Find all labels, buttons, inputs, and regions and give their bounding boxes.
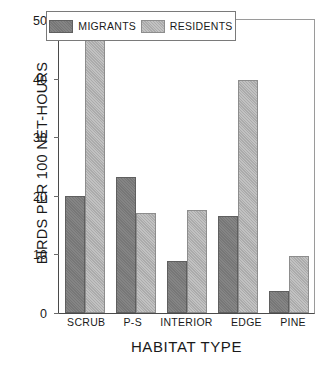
y-axis-tick-label: 20 (33, 190, 47, 204)
x-axis-tick-label: INTERIOR (160, 316, 213, 328)
x-axis-tick-label: EDGE (231, 316, 262, 328)
legend-label-migrants: MIGRANTS (78, 20, 136, 32)
bar-groups (59, 20, 314, 313)
bar-migrants-edge[interactable] (218, 216, 238, 313)
y-axis-title: BIRDS PER 100 NET-HOURS (34, 13, 50, 313)
chart-legend: MIGRANTS RESIDENTS (46, 11, 236, 41)
bar-chart-figure: BIRDS PER 100 NET-HOURS 01020304050 MIGR… (0, 0, 330, 367)
bar-migrants-scrub[interactable] (65, 196, 85, 313)
x-axis-title: HABITAT TYPE (58, 338, 315, 355)
y-axis-tick-label: 10 (33, 248, 47, 262)
bar-group (167, 20, 207, 313)
bar-residents-pine[interactable] (289, 256, 309, 313)
bar-migrants-p-s[interactable] (116, 177, 136, 313)
legend-entry-migrants: MIGRANTS (49, 20, 136, 33)
bar-residents-scrub[interactable] (85, 32, 105, 313)
y-axis-tick-label: 50 (33, 14, 47, 28)
bar-group (269, 20, 309, 313)
x-axis-tick-label: SCRUB (67, 316, 105, 328)
x-axis-tick-labels: SCRUBP-SINTERIOREDGEPINE (58, 316, 315, 328)
bar-group (65, 20, 105, 313)
legend-swatch-migrants (49, 20, 73, 33)
legend-entry-residents: RESIDENTS (141, 20, 233, 33)
bar-residents-p-s[interactable] (136, 213, 156, 313)
bar-migrants-interior[interactable] (167, 261, 187, 313)
x-axis-tick-label: PINE (280, 316, 306, 328)
y-axis-tick-label: 0 (40, 307, 47, 321)
plot-area: 01020304050 (58, 19, 315, 314)
legend-swatch-residents (141, 20, 165, 33)
y-axis-tick-label: 40 (33, 73, 47, 87)
bar-group (218, 20, 258, 313)
bar-residents-interior[interactable] (187, 210, 207, 313)
y-axis-tick-label: 30 (33, 131, 47, 145)
x-axis-tick-label: P-S (124, 316, 142, 328)
legend-label-residents: RESIDENTS (170, 20, 233, 32)
y-axis-tick: 0 (54, 313, 59, 314)
bar-residents-edge[interactable] (238, 80, 258, 313)
bar-migrants-pine[interactable] (269, 291, 289, 313)
bar-group (116, 20, 156, 313)
